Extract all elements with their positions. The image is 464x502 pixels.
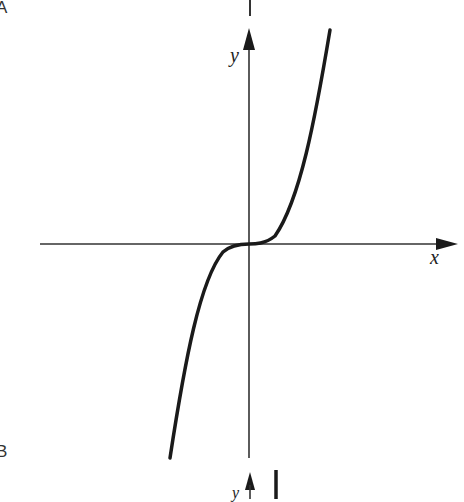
panel-label-b: B: [0, 442, 7, 462]
x-axis-label: x: [430, 246, 439, 269]
y-axis-arrow-icon: [243, 28, 255, 50]
y-axis-label: y: [230, 44, 239, 67]
next-panel-y-label: y: [232, 484, 239, 502]
x-axis-arrow-icon: [436, 238, 458, 250]
